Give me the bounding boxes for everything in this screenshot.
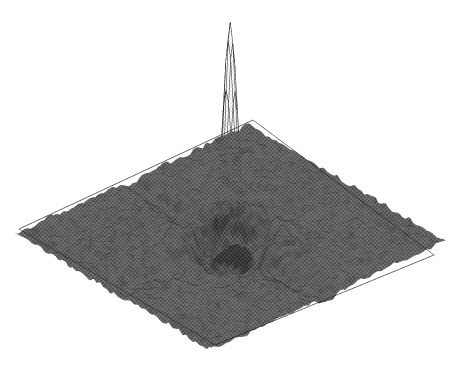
- surface-mesh-canvas: [0, 0, 454, 366]
- surface-plot-figure: Isometric wireframe mesh surface plot sh…: [0, 0, 454, 366]
